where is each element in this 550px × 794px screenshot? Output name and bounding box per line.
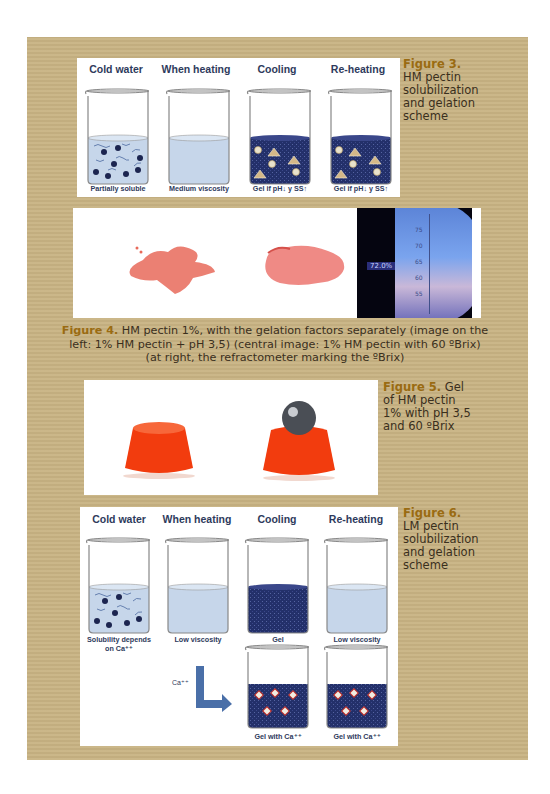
hm-pectin-ph-spill: [123, 238, 223, 298]
fig6-beaker-cooling: [242, 537, 314, 635]
figure5-caption-line: and 60 ºBrix: [383, 420, 503, 433]
figure3-diagram: Cold water When heating Cooling Re-heati…: [77, 58, 400, 197]
figure6-diagram: Cold water When heating Cooling Re-heati…: [80, 507, 398, 746]
fig3-col-when-heating: When heating: [157, 63, 235, 75]
fig6-beaker-gel-with-ca-2: [321, 644, 393, 729]
fig3-beaker-when-heating: [163, 88, 235, 186]
fig3-col-cooling: Cooling: [238, 63, 316, 75]
figure5-number: Figure 5.: [383, 380, 441, 394]
fig3-label-partially-soluble: Partially soluble: [75, 184, 161, 193]
fig3-label-medium-viscosity: Medium viscosity: [156, 184, 242, 193]
figure4-caption-line2: left: 1% HM pectin + pH 3,5) (central im…: [50, 338, 500, 352]
fig6-beaker-cold-water: [83, 537, 155, 635]
fig6-label-solubility-line2: on Ca⁺⁺: [76, 644, 162, 653]
refractometer-indicator: 72.0%: [367, 262, 395, 270]
fig6-beaker-gel-with-ca-1: [242, 644, 314, 729]
fig3-beaker-reheating: [325, 88, 397, 186]
figure6-caption-line: scheme: [403, 559, 513, 572]
fig6-label-gel: Gel: [235, 635, 321, 644]
fig3-label-gel-if-cooling: Gel if pH↓ y SS↑: [237, 184, 323, 193]
ca-label: Ca⁺⁺: [172, 679, 189, 687]
fig6-label-solubility: Solubility depends on Ca⁺⁺: [76, 635, 162, 653]
refractometer-scale: 75 70 65 60 55: [415, 222, 423, 302]
figure4-caption-line1: Figure 4. HM pectin 1%, with the gelatio…: [50, 324, 500, 338]
figure6-caption: Figure 6. LM pectin solubilization and g…: [403, 507, 513, 572]
fig6-col-when-heating: When heating: [158, 513, 236, 525]
figure4-caption: Figure 4. HM pectin 1%, with the gelatio…: [50, 324, 500, 365]
fig3-beaker-cold-water: [82, 88, 154, 186]
figure4-number: Figure 4.: [62, 324, 118, 337]
fig6-col-cold-water: Cold water: [80, 513, 158, 525]
fig3-col-reheating: Re-heating: [319, 63, 397, 75]
figure4-caption-text: HM pectin 1%, with the gelation factors …: [118, 324, 488, 337]
fig6-label-gel-with-ca-2: Gel with Ca⁺⁺: [314, 732, 400, 741]
figure4-photo: 72.0% 75 70 65 60 55: [73, 208, 481, 318]
fig3-col-cold-water: Cold water: [77, 63, 155, 75]
refractometer-view: 72.0% 75 70 65 60 55: [357, 208, 472, 318]
figure4-caption-line3: (at right, the refractometer marking the…: [50, 351, 500, 365]
fig6-label-low-viscosity-reheating: Low viscosity: [314, 635, 400, 644]
gel-cube-plain: [119, 420, 199, 480]
ca-arrow-icon: [194, 664, 236, 712]
figure5-caption-text: Gel: [441, 380, 464, 394]
figure5-caption: Figure 5. Gel of HM pectin 1% with pH 3,…: [383, 381, 503, 433]
fig6-beaker-when-heating: [162, 537, 234, 635]
figure3-caption: Figure 3. HM pectin solubilization and g…: [403, 58, 513, 123]
fig6-col-reheating: Re-heating: [317, 513, 395, 525]
gel-cube-with-steel-ball: [259, 390, 339, 482]
fig3-label-gel-if-reheating: Gel if pH↓ y SS↑: [318, 184, 404, 193]
fig6-label-low-viscosity-heating: Low viscosity: [155, 635, 241, 644]
figure3-caption-line: scheme: [403, 110, 513, 123]
fig6-label-gel-with-ca-1: Gel with Ca⁺⁺: [235, 732, 321, 741]
fig6-beaker-reheating: [321, 537, 393, 635]
fig3-beaker-cooling: [244, 88, 316, 186]
fig6-label-solubility-line1: Solubility depends: [76, 635, 162, 644]
fig6-col-cooling: Cooling: [238, 513, 316, 525]
hm-pectin-brix-spill: [258, 241, 348, 291]
figure5-photo: [84, 380, 378, 495]
